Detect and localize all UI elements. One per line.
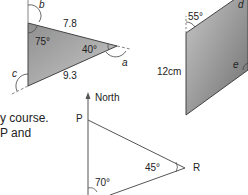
angle-d-label: d [238, 0, 244, 10]
point-r-label: R [193, 163, 200, 173]
angle-left-label: 75° [35, 37, 50, 47]
point-p-label: P [76, 114, 83, 124]
body-text-line-2: P and [0, 126, 31, 140]
figures-canvas [0, 0, 248, 195]
exterior-angle-b-label: b [39, 0, 45, 10]
angle-e-label: e [233, 60, 239, 70]
body-text-line-1: y course. [0, 111, 49, 125]
side-bottom-label: 9.3 [63, 71, 77, 81]
north-label: North [95, 93, 119, 103]
parallelogram-side-label: 12cm [157, 67, 181, 77]
angle-right-label: 40° [82, 45, 97, 55]
angle-q-label: 70° [95, 178, 110, 188]
angle-r-label: 45° [145, 163, 160, 173]
exterior-angle-a-label: a [122, 58, 128, 68]
parallelogram-angle-label: 55° [188, 12, 203, 22]
exterior-angle-c-label: c [12, 69, 17, 79]
side-top-label: 7.8 [63, 19, 77, 29]
